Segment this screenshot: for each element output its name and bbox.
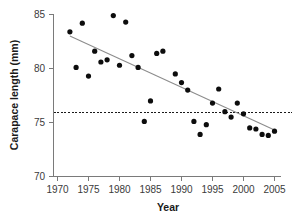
data-point — [216, 86, 221, 91]
y-tick-label: 70 — [34, 171, 46, 182]
chart-svg: 85 80 75 70 1970 1975 1980 1985 1990 199… — [0, 0, 301, 223]
y-axis-title: Carapace length (mm) — [8, 40, 20, 150]
x-axis-title: Year — [157, 201, 179, 213]
scatter-chart: 85 80 75 70 1970 1975 1980 1985 1990 199… — [0, 0, 301, 223]
data-point — [222, 109, 227, 114]
x-tick-label: 1995 — [201, 184, 224, 195]
data-point — [129, 53, 134, 58]
data-point — [179, 80, 184, 85]
data-point — [260, 132, 265, 137]
data-point — [142, 119, 147, 124]
data-point — [148, 98, 153, 103]
y-tick-label: 85 — [34, 9, 46, 20]
x-tick-label: 1985 — [139, 184, 162, 195]
x-tick-label: 1980 — [108, 184, 131, 195]
y-tick-label: 80 — [34, 63, 46, 74]
data-point — [229, 115, 234, 120]
data-points-layer — [67, 13, 277, 138]
data-point — [105, 57, 110, 62]
data-point — [235, 100, 240, 105]
data-point — [185, 88, 190, 93]
data-point — [80, 21, 85, 26]
data-point — [154, 51, 159, 56]
data-point — [74, 65, 79, 70]
data-point — [160, 49, 165, 54]
data-point — [67, 29, 72, 34]
data-point — [111, 13, 116, 18]
data-point — [117, 63, 122, 68]
x-axis-ticks: 1970 1975 1980 1985 1990 1995 2000 2005 — [46, 177, 286, 196]
data-point — [204, 122, 209, 127]
x-tick-label: 1990 — [170, 184, 193, 195]
x-tick-label: 2000 — [232, 184, 255, 195]
y-tick-label: 75 — [34, 117, 46, 128]
data-point — [210, 100, 215, 105]
data-point — [241, 111, 246, 116]
data-point — [92, 49, 97, 54]
data-point — [247, 125, 252, 130]
data-point — [253, 126, 258, 131]
data-point — [198, 132, 203, 137]
x-tick-label: 1970 — [46, 184, 69, 195]
data-point — [266, 133, 271, 138]
data-point — [86, 73, 91, 78]
data-point — [191, 119, 196, 124]
data-point — [123, 19, 128, 24]
x-tick-label: 1975 — [77, 184, 100, 195]
y-axis-ticks: 85 80 75 70 — [34, 9, 54, 182]
data-point — [272, 129, 277, 134]
x-tick-label: 2005 — [263, 184, 286, 195]
data-point — [136, 65, 141, 70]
data-point — [98, 59, 103, 64]
data-point — [173, 71, 178, 76]
